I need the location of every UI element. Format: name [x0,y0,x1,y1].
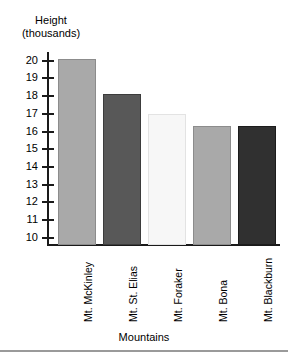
bar-mt-st-elias [103,94,141,245]
x-axis-title: Mountains [0,331,288,343]
bar-chart-figure: Height (thousands) 201918171615141312111… [0,0,288,363]
x-axis-label-mt-blackburn: Mt. Blackburn [262,244,274,322]
x-axis-label-mt-st-elias: Mt. St. Elias [127,244,139,322]
x-axis-category-labels: Mt. McKinleyMt. St. EliasMt. ForakerMt. … [0,248,288,326]
bottom-divider [0,350,288,352]
x-axis-label-mt-mckinley: Mt. McKinley [82,244,94,322]
bar-mt-bona [193,126,231,245]
bar-mt-mckinley [58,59,96,245]
x-axis-label-mt-foraker: Mt. Foraker [172,244,184,322]
x-axis-label-mt-bona: Mt. Bona [217,244,229,322]
bar-mt-foraker [148,114,186,245]
bar-mt-blackburn [238,126,276,245]
